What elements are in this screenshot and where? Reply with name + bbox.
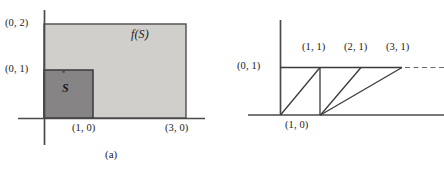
label-point-0-1: (0, 1) [237, 60, 260, 71]
panel-a-graphic [0, 0, 222, 172]
figure-container: (0, 2) (0, 1) (1, 0) (3, 0) f(S) S (a) [0, 0, 444, 172]
label-point-1-0: (1, 0) [72, 122, 95, 133]
label-point-1-0: (1, 0) [285, 119, 308, 130]
panel-a: (0, 2) (0, 1) (1, 0) (3, 0) f(S) S (a) [0, 0, 222, 172]
diagonal-1-0-to-2-1 [321, 68, 362, 116]
label-point-0-2: (0, 2) [5, 17, 28, 28]
label-point-0-1: (0, 1) [5, 63, 28, 74]
diagonal-1-0-to-3-1 [321, 68, 403, 116]
label-point-2-1: (2, 1) [344, 41, 367, 52]
speck-mark [62, 70, 65, 73]
panel-b-graphic [222, 0, 444, 172]
label-point-1-1: (1, 1) [302, 41, 325, 52]
label-point-3-1: (3, 1) [386, 41, 409, 52]
panel-b: (0, 1) (1, 1) (2, 1) (3, 1) (1, 0) (b) [222, 0, 444, 172]
caption-panel-a: (a) [105, 148, 117, 160]
label-point-3-0: (3, 0) [165, 122, 188, 133]
diagonal-0-0-to-1-1 [281, 68, 321, 116]
label-source-region-s: S [62, 81, 69, 96]
label-image-region-fs: f(S) [131, 27, 149, 42]
